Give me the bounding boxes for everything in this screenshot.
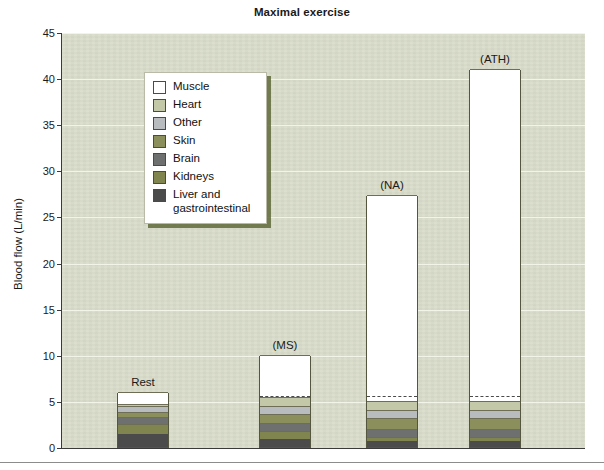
legend-label: Brain xyxy=(173,152,200,166)
legend-label: Kidneys xyxy=(173,170,214,184)
y-axis-label: Blood flow (L/min) xyxy=(12,164,24,324)
chart-figure: Maximal exercise Rest(MS)(NA)(ATH) 05101… xyxy=(0,0,604,470)
legend: MuscleHeartOtherSkinBrainKidneysLiver an… xyxy=(144,72,267,224)
y-tick-mark xyxy=(57,448,61,449)
legend-item: Liver and gastrointestinal xyxy=(153,188,258,215)
y-axis-label-holder: Blood flow (L/min) xyxy=(0,33,60,448)
legend-label: Skin xyxy=(173,134,195,148)
legend-swatch-icon xyxy=(153,171,166,184)
legend-item: Muscle xyxy=(153,80,258,94)
legend-label: Muscle xyxy=(173,80,209,94)
chart-title: Maximal exercise xyxy=(0,6,604,18)
legend-swatch-icon xyxy=(153,189,166,202)
legend-item: Skin xyxy=(153,134,258,148)
legend-swatch-icon xyxy=(153,153,166,166)
legend-item: Brain xyxy=(153,152,258,166)
legend-swatch-icon xyxy=(153,81,166,94)
legend-item: Heart xyxy=(153,98,258,112)
legend-label: Liver and gastrointestinal xyxy=(173,188,258,215)
legend-swatch-icon xyxy=(153,99,166,112)
y-axis: 051015202530354045 xyxy=(0,33,604,448)
legend-item: Kidneys xyxy=(153,170,258,184)
legend-label: Other xyxy=(173,116,202,130)
legend-swatch-icon xyxy=(153,135,166,148)
legend-label: Heart xyxy=(173,98,201,112)
bottom-divider xyxy=(0,462,604,463)
legend-item: Other xyxy=(153,116,258,130)
legend-swatch-icon xyxy=(153,117,166,130)
